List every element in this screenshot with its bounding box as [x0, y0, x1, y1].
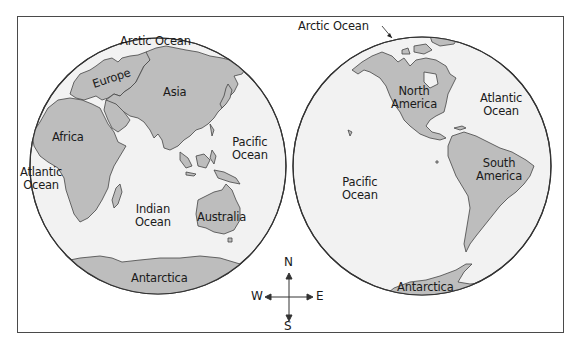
label-antarctica-east: Antarctica	[131, 272, 188, 285]
label-north-america: North America	[391, 85, 437, 111]
label-arctic-ocean-west: Arctic Ocean	[298, 20, 369, 33]
label-pacific-ocean-west: Pacific Ocean	[342, 176, 378, 202]
compass-west: W	[251, 290, 263, 303]
label-antarctica-west: Antarctica	[397, 281, 454, 294]
compass-rose	[265, 273, 313, 321]
label-atlantic-ocean-west: Atlantic Ocean	[480, 92, 522, 118]
label-africa: Africa	[52, 131, 84, 144]
eastern-hemisphere	[30, 38, 286, 300]
label-indian-ocean: Indian Ocean	[135, 203, 171, 229]
label-asia: Asia	[163, 86, 186, 99]
label-arctic-ocean-east: Arctic Ocean	[120, 35, 191, 48]
label-south-america: South America	[476, 157, 522, 183]
label-pacific-ocean-east: Pacific Ocean	[232, 136, 268, 162]
compass-east: E	[316, 290, 323, 303]
compass-south: S	[284, 320, 291, 333]
compass-north: N	[284, 256, 293, 269]
label-atlantic-ocean-east: Atlantic Ocean	[20, 166, 62, 192]
label-australia: Australia	[197, 211, 246, 224]
